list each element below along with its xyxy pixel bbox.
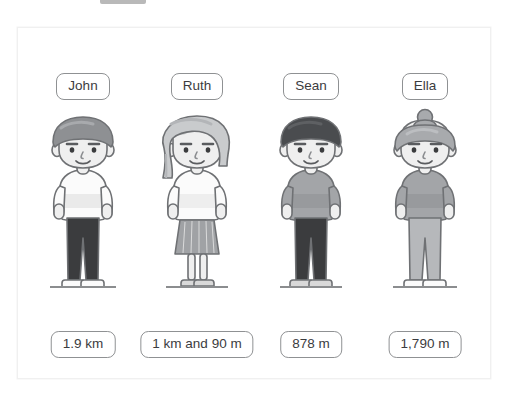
- boy-dark-hair-avatar: [259, 108, 363, 290]
- person-name-label: Sean: [283, 73, 339, 100]
- screenshot-root: John 1.9 kmRuth: [0, 0, 519, 400]
- distance-value-label: 1.9 km: [51, 331, 116, 358]
- ground-line: [166, 286, 228, 287]
- distance-value-wrap: 1 km and 90 m: [140, 331, 253, 358]
- girl-long-hair-skirt-avatar: [145, 108, 249, 290]
- people-row: John 1.9 kmRuth: [18, 28, 490, 378]
- top-gray-bar: [100, 0, 146, 4]
- person-name-label: Ruth: [171, 73, 224, 100]
- distance-value-label: 878 m: [280, 331, 342, 358]
- person-name-label: John: [56, 73, 109, 100]
- distance-value-wrap: 1.9 km: [51, 331, 116, 358]
- person-card: Sean 878 m: [257, 73, 365, 290]
- distance-value-label: 1 km and 90 m: [140, 331, 253, 358]
- girl-top-bun-avatar: [373, 108, 477, 290]
- distance-value-wrap: 1,790 m: [389, 331, 462, 358]
- distance-value-wrap: 878 m: [280, 331, 342, 358]
- distance-value-label: 1,790 m: [389, 331, 462, 358]
- person-card: Ruth 1 km and 90 m: [143, 73, 251, 290]
- ground-line: [393, 286, 457, 287]
- ground-line: [280, 286, 342, 287]
- person-card: Ella 1,790 m: [371, 73, 479, 290]
- illustration-card: John 1.9 kmRuth: [17, 27, 491, 379]
- person-card: John 1.9 km: [29, 73, 137, 290]
- boy-short-gray-hair-avatar: [31, 108, 135, 290]
- person-name-label: Ella: [402, 73, 449, 100]
- ground-line: [50, 286, 116, 287]
